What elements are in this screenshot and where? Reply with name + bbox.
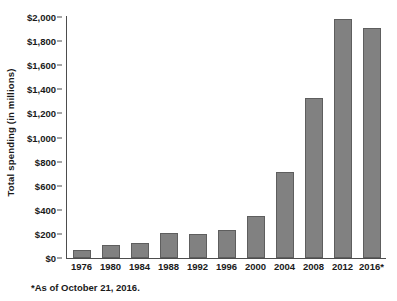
x-axis-tick-label: 1992 bbox=[187, 261, 208, 272]
y-axis-tick-mark bbox=[57, 41, 62, 42]
bar-slot bbox=[357, 17, 386, 258]
bar bbox=[363, 28, 381, 258]
y-axis-tick-mark bbox=[57, 65, 62, 66]
y-axis-tick-mark bbox=[57, 113, 62, 114]
y-axis-tick-mark bbox=[57, 233, 62, 234]
bar-slot bbox=[183, 17, 212, 258]
bar bbox=[276, 172, 294, 258]
bar-slot bbox=[241, 17, 270, 258]
x-axis-tick-label: 2012 bbox=[332, 261, 353, 272]
bar bbox=[334, 19, 352, 258]
x-axis-tick-label: 2000 bbox=[245, 261, 266, 272]
bar-slot bbox=[154, 17, 183, 258]
chart-footnote: *As of October 21, 2016. bbox=[31, 282, 140, 293]
x-axis-tick-label: 2004 bbox=[274, 261, 295, 272]
bar-slot bbox=[67, 17, 96, 258]
x-axis-tick-label: 1988 bbox=[158, 261, 179, 272]
y-axis-tick-mark bbox=[57, 137, 62, 138]
bar-slot bbox=[328, 17, 357, 258]
y-axis-tick-mark bbox=[57, 17, 62, 18]
y-axis-tick-label: $800 bbox=[35, 156, 56, 167]
x-axis-tick-label: 1980 bbox=[100, 261, 121, 272]
bar-slot bbox=[212, 17, 241, 258]
y-axis-tick-mark bbox=[57, 161, 62, 162]
y-axis-tick-label: $1,800 bbox=[27, 36, 56, 47]
bar-slot bbox=[96, 17, 125, 258]
y-axis-tick-label: $0 bbox=[45, 253, 56, 264]
bar bbox=[73, 250, 91, 258]
y-axis-tick-label: $1,400 bbox=[27, 84, 56, 95]
y-axis-tick-mark bbox=[57, 89, 62, 90]
y-axis-tick-label: $200 bbox=[35, 228, 56, 239]
x-axis-tick-label: 2016* bbox=[359, 261, 384, 272]
y-axis-tick-label: $2,000 bbox=[27, 12, 56, 23]
x-axis-tick-label: 2008 bbox=[303, 261, 324, 272]
bar bbox=[102, 245, 120, 258]
y-axis-tick-label: $1,000 bbox=[27, 132, 56, 143]
bar bbox=[247, 216, 265, 258]
y-axis-tick-mark bbox=[57, 185, 62, 186]
bar-slot bbox=[270, 17, 299, 258]
bar-chart-figure: Total spending (in millions) $0$200$400$… bbox=[0, 0, 397, 301]
y-axis-tick-label: $600 bbox=[35, 180, 56, 191]
x-axis-line bbox=[66, 258, 386, 259]
bar bbox=[189, 234, 207, 258]
bar-slot bbox=[125, 17, 154, 258]
bar bbox=[218, 230, 236, 258]
bar-slot bbox=[299, 17, 328, 258]
plot-area bbox=[67, 17, 386, 258]
y-axis-tick-mark bbox=[57, 209, 62, 210]
x-axis-tick-labels: 1976198019841988199219962000200420082012… bbox=[67, 261, 386, 277]
y-axis-tick-label: $400 bbox=[35, 204, 56, 215]
y-axis-tick-mark bbox=[57, 258, 62, 259]
x-axis-tick-label: 1976 bbox=[71, 261, 92, 272]
x-axis-tick-label: 1996 bbox=[216, 261, 237, 272]
bar bbox=[131, 243, 149, 258]
y-axis-tick-labels: $0$200$400$600$800$1,000$1,200$1,400$1,6… bbox=[14, 0, 62, 301]
bar bbox=[160, 233, 178, 258]
y-axis-tick-label: $1,200 bbox=[27, 108, 56, 119]
y-axis-tick-label: $1,600 bbox=[27, 60, 56, 71]
bar bbox=[305, 98, 323, 258]
x-axis-tick-label: 1984 bbox=[129, 261, 150, 272]
